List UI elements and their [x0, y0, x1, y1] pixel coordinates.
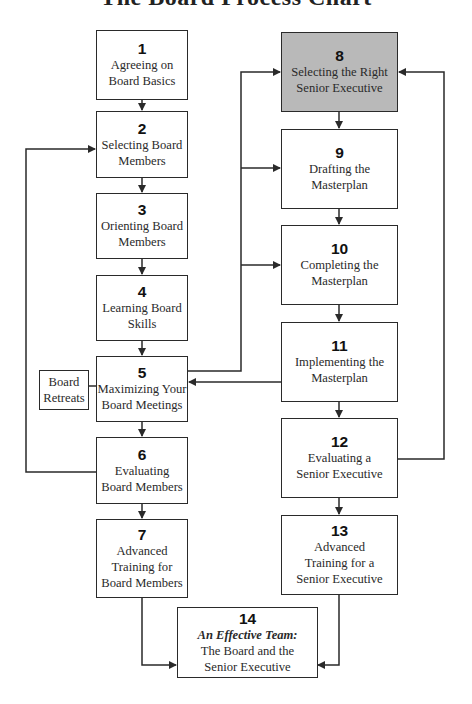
- step-number: 10: [331, 241, 348, 257]
- step-label-line: Selecting the Right: [291, 64, 388, 80]
- step-label-line: Selecting Board: [102, 137, 183, 153]
- step-number: 3: [138, 202, 147, 218]
- step-label-line: Advanced: [116, 543, 167, 559]
- step-label-line: Evaluating: [115, 463, 170, 479]
- step-label-line: Maximizing Your: [98, 381, 187, 397]
- step-9-box: 9 Drafting the Masterplan: [281, 129, 398, 209]
- step-number: 2: [138, 121, 147, 137]
- step-number: 8: [335, 48, 344, 64]
- step-label-line: Completing the: [300, 257, 378, 273]
- side-label-line: Board: [49, 374, 80, 390]
- step-label-line: Senior Executive: [204, 659, 290, 675]
- step-label-emphasis: An Effective Team:: [197, 627, 297, 643]
- step-label-line: Agreeing on: [111, 57, 174, 73]
- step-label-line: Skills: [128, 316, 157, 332]
- step-label-line: Learning Board: [102, 300, 181, 316]
- step-14-box: 14 An Effective Team: The Board and the …: [177, 607, 318, 678]
- step-11-box: 11 Implementing the Masterplan: [281, 322, 398, 402]
- step-label-line: Evaluating a: [308, 450, 371, 466]
- step-label-line: Masterplan: [311, 273, 368, 289]
- step-label-line: Advanced: [314, 539, 365, 555]
- step-label-line: The Board and the: [201, 643, 294, 659]
- board-retreats-box: Board Retreats: [39, 370, 89, 410]
- step-1-box: 1 Agreeing on Board Basics: [96, 30, 188, 100]
- side-label-line: Retreats: [43, 390, 84, 406]
- step-8-box: 8 Selecting the Right Senior Executive: [281, 32, 398, 112]
- step-number: 5: [138, 365, 147, 381]
- step-number: 9: [335, 145, 344, 161]
- step-13-box: 13 Advanced Training for a Senior Execut…: [281, 515, 398, 595]
- step-label-line: Implementing the: [295, 354, 384, 370]
- step-number: 7: [138, 527, 147, 543]
- step-label-line: Senior Executive: [296, 80, 382, 96]
- step-2-box: 2 Selecting Board Members: [96, 111, 188, 178]
- step-number: 6: [138, 447, 147, 463]
- step-label-line: Senior Executive: [296, 571, 382, 587]
- step-5-box: 5 Maximizing Your Board Meetings: [96, 356, 188, 422]
- step-label-line: Orienting Board: [101, 218, 183, 234]
- step-label-line: Training for: [112, 559, 173, 575]
- emphasis-text: An Effective Team:: [197, 628, 297, 642]
- step-number: 12: [331, 434, 348, 450]
- step-label-line: Board Meetings: [102, 397, 183, 413]
- step-label-line: Members: [118, 153, 166, 169]
- step-4-box: 4 Learning Board Skills: [96, 275, 188, 341]
- step-label-line: Drafting the: [309, 161, 370, 177]
- step-label-line: Members: [118, 234, 166, 250]
- step-12-box: 12 Evaluating a Senior Executive: [281, 418, 398, 498]
- step-3-box: 3 Orienting Board Members: [96, 193, 188, 259]
- step-label-line: Board Members: [101, 479, 183, 495]
- step-label-line: Masterplan: [311, 370, 368, 386]
- step-label-line: Board Members: [101, 575, 183, 591]
- step-10-box: 10 Completing the Masterplan: [281, 225, 398, 305]
- step-number: 11: [331, 338, 347, 354]
- step-7-box: 7 Advanced Training for Board Members: [96, 519, 188, 598]
- step-number: 13: [331, 523, 348, 539]
- step-number: 1: [138, 41, 147, 57]
- step-number: 14: [239, 611, 256, 627]
- connector-lines: [0, 0, 472, 704]
- step-6-box: 6 Evaluating Board Members: [96, 437, 188, 504]
- step-label-line: Masterplan: [311, 177, 368, 193]
- step-label-line: Training for a: [305, 555, 375, 571]
- step-label-line: Senior Executive: [296, 466, 382, 482]
- step-number: 4: [138, 284, 147, 300]
- step-label-line: Board Basics: [109, 73, 176, 89]
